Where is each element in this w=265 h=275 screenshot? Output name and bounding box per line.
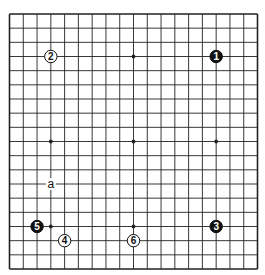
white-stone-6: 6 xyxy=(127,234,139,246)
black-stone-1: 1 xyxy=(210,50,222,62)
star-point xyxy=(132,55,136,59)
move-number: 1 xyxy=(213,51,219,62)
star-point xyxy=(49,225,53,229)
go-board-svg: a 123456 xyxy=(0,0,265,275)
white-stone-4: 4 xyxy=(58,234,70,246)
stones: 123456 xyxy=(31,50,223,247)
star-point xyxy=(214,140,218,144)
move-number: 2 xyxy=(48,51,54,62)
star-point xyxy=(132,225,136,229)
black-stone-3: 3 xyxy=(210,220,222,232)
move-number: 3 xyxy=(213,221,219,232)
black-stone-5: 5 xyxy=(31,220,43,232)
star-point xyxy=(49,140,53,144)
label-text: a xyxy=(47,177,54,191)
star-point xyxy=(132,140,136,144)
point-labels: a xyxy=(46,177,56,191)
move-number: 4 xyxy=(62,235,68,246)
move-number: 6 xyxy=(131,235,137,246)
point-label-a: a xyxy=(46,177,56,191)
move-number: 5 xyxy=(34,221,40,232)
white-stone-2: 2 xyxy=(45,50,57,62)
go-board: a 123456 xyxy=(0,0,265,275)
